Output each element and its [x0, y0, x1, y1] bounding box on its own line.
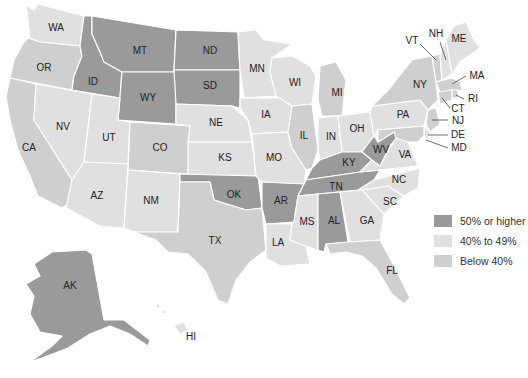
label-mo: MO	[266, 152, 282, 163]
label-in: IN	[326, 131, 336, 142]
legend-label-mid: 40% to 49%	[460, 235, 517, 247]
label-hi: HI	[186, 331, 196, 342]
label-va: VA	[399, 149, 412, 160]
label-nj: NJ	[452, 115, 464, 126]
label-nm: NM	[143, 195, 159, 206]
label-ky: KY	[342, 157, 356, 168]
label-nd: ND	[203, 45, 217, 56]
label-sc: SC	[383, 196, 397, 207]
label-ga: GA	[360, 215, 375, 226]
label-de: DE	[451, 129, 465, 140]
label-nh: NH	[429, 28, 443, 39]
label-ne: NE	[209, 117, 223, 128]
label-ia: IA	[261, 109, 271, 120]
label-pa: PA	[397, 109, 410, 120]
label-vt: VT	[406, 35, 419, 46]
state-hi-islet	[156, 304, 160, 308]
label-ut: UT	[102, 132, 115, 143]
label-sd: SD	[203, 80, 217, 91]
label-id: ID	[88, 76, 98, 87]
legend-swatch-mid	[434, 235, 452, 247]
label-la: LA	[272, 237, 285, 248]
label-me: ME	[452, 33, 467, 44]
label-wa: WA	[48, 22, 64, 33]
state-me	[446, 22, 480, 74]
label-ri: RI	[468, 93, 478, 104]
legend-swatch-high	[434, 215, 452, 227]
legend-label-low: Below 40%	[460, 255, 513, 267]
label-mn: MN	[249, 63, 265, 74]
legend: 50% or higher 40% to 49% Below 40%	[434, 212, 525, 272]
label-ct: CT	[451, 103, 464, 114]
legend-item-mid: 40% to 49%	[434, 232, 525, 250]
us-choropleth-map: WA OR CA ID NV MT WY UT AZ CO NM ND SD N…	[0, 0, 528, 378]
label-ca: CA	[22, 142, 36, 153]
state-ri	[452, 90, 458, 98]
state-ak	[26, 250, 150, 362]
label-tn: TN	[329, 181, 342, 192]
label-wy: WY	[140, 92, 156, 103]
label-ks: KS	[218, 152, 232, 163]
label-ma: MA	[470, 70, 485, 81]
label-tx: TX	[209, 235, 222, 246]
state-hi-islet	[162, 310, 166, 314]
label-mt: MT	[133, 45, 147, 56]
label-wi: WI	[289, 77, 301, 88]
label-ak: AK	[63, 280, 77, 291]
label-mi: MI	[331, 87, 342, 98]
label-nv: NV	[56, 121, 70, 132]
label-ny: NY	[413, 79, 427, 90]
state-ny	[372, 56, 438, 110]
legend-swatch-low	[434, 255, 452, 267]
legend-item-low: Below 40%	[434, 252, 525, 270]
label-al: AL	[328, 215, 341, 226]
legend-item-high: 50% or higher	[434, 212, 525, 230]
label-co: CO	[153, 142, 168, 153]
label-wv: WV	[373, 144, 389, 155]
label-az: AZ	[91, 190, 104, 201]
label-ms: MS	[300, 216, 315, 227]
label-il: IL	[300, 130, 309, 141]
label-fl: FL	[386, 265, 398, 276]
label-ar: AR	[274, 195, 288, 206]
label-nc: NC	[392, 174, 406, 185]
label-ok: OK	[227, 189, 242, 200]
leader-md	[426, 140, 448, 148]
label-oh: OH	[350, 123, 365, 134]
label-or: OR	[37, 62, 52, 73]
legend-label-high: 50% or higher	[460, 215, 525, 227]
label-md: MD	[451, 142, 467, 153]
